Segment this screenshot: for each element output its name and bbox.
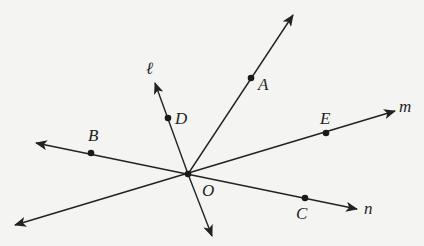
point-c (302, 195, 309, 202)
point-o (185, 171, 192, 178)
label-d: D (174, 109, 188, 128)
line-n (36, 143, 357, 209)
label-a: A (257, 75, 269, 94)
point-e (323, 130, 330, 137)
line-m (15, 111, 395, 225)
point-b (88, 150, 95, 157)
label-l: ℓ (146, 59, 153, 78)
point-a (248, 75, 255, 82)
point-d (165, 115, 172, 122)
ray-l (155, 83, 188, 174)
label-m: m (399, 97, 411, 116)
label-n: n (364, 199, 373, 218)
ray-oa (188, 15, 293, 174)
geometry-diagram: A B C D E O ℓ m n (0, 0, 424, 246)
label-e: E (319, 109, 331, 128)
label-b: B (88, 126, 99, 145)
label-o: O (202, 181, 214, 200)
label-c: C (296, 204, 308, 223)
